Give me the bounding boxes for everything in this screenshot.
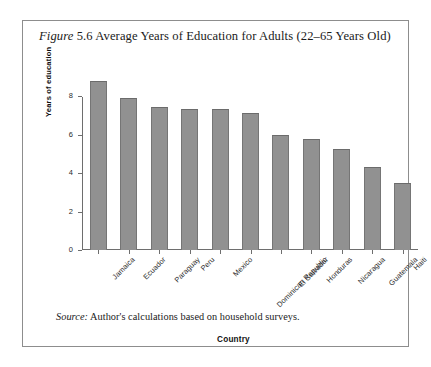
y-axis-tick <box>78 250 82 251</box>
source-note-text: Author's calculations based on household… <box>90 311 300 322</box>
bars-layer <box>83 77 418 250</box>
x-axis-tick <box>159 250 160 254</box>
bar <box>181 109 198 250</box>
figure-title: Figure 5.6 Average Years of Education fo… <box>39 29 391 45</box>
source-note-prefix: Source: <box>56 311 88 322</box>
x-axis-tick <box>311 250 312 254</box>
y-axis-tick-label: 0 <box>59 246 73 254</box>
bar <box>212 109 229 250</box>
y-axis-tick-label: 2 <box>59 208 73 216</box>
x-axis-tick <box>190 250 191 254</box>
figure-frame: Figure 5.6 Average Years of Education fo… <box>22 20 409 347</box>
x-axis-category-label: Paraguay <box>173 255 202 284</box>
x-axis-title: Country <box>61 335 406 344</box>
y-axis-tick <box>78 173 82 174</box>
bar <box>151 107 168 250</box>
y-axis-tick <box>78 96 82 97</box>
bar <box>333 149 350 250</box>
bar <box>272 135 289 250</box>
x-axis-category-label: Mexico <box>231 255 254 278</box>
x-axis-tick <box>342 250 343 254</box>
x-axis-category-label: Nicaragua <box>356 255 387 286</box>
x-axis-tick <box>251 250 252 254</box>
x-axis-tick <box>220 250 221 254</box>
x-axis-category-label: Ecuador <box>141 255 167 281</box>
y-axis-tick-label: 8 <box>59 92 73 100</box>
x-axis-tick <box>281 250 282 254</box>
x-axis-category-label: Guatemala <box>387 255 420 288</box>
chart-plot-area: 02468 Years of education JamaicaEcuadorP… <box>61 77 406 253</box>
source-note: Source: Author's calculations based on h… <box>56 311 396 322</box>
y-axis-tick-label: 6 <box>59 131 73 139</box>
bar <box>120 98 137 250</box>
x-axis-category-label: El Salvador <box>296 255 330 289</box>
bar <box>303 139 320 250</box>
x-axis-category-label: Peru <box>198 255 216 273</box>
y-axis-tick <box>78 212 82 213</box>
x-axis-tick <box>403 250 404 254</box>
y-axis-tick-label: 4 <box>59 169 73 177</box>
x-axis-tick <box>372 250 373 254</box>
x-axis-tick <box>98 250 99 254</box>
y-axis-title: Years of education <box>44 0 53 117</box>
y-axis-tick <box>78 135 82 136</box>
x-axis-category-label: Jamaica <box>110 255 136 281</box>
bar <box>394 183 411 250</box>
bar <box>242 113 259 250</box>
x-axis-tick <box>129 250 130 254</box>
figure-title-text: 5.6 Average Years of Education for Adult… <box>77 29 391 43</box>
bar <box>90 81 107 250</box>
bar <box>364 167 381 250</box>
